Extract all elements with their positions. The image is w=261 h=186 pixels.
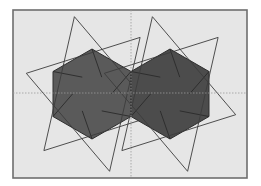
diagram-canvas [0,0,261,186]
